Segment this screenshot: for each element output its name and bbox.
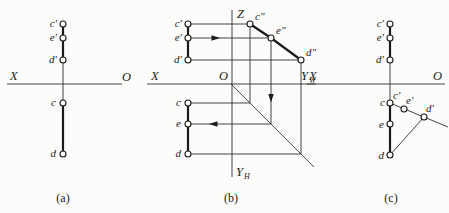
panel-c-label-d-prime: d′ (376, 53, 385, 65)
panel-b-point-c (185, 100, 191, 106)
panel-b-x-axis-label: X (150, 69, 160, 83)
panel-c-point-d (387, 152, 393, 158)
panel-c-point-c-prime (387, 21, 393, 27)
panel-a-point-d (60, 151, 66, 157)
panel-b-label-d-prime: d′ (174, 53, 183, 65)
panel-c-point-e1-prime (401, 106, 407, 112)
projection-diagram-svg: X O c′ e′ d′ c d (a) Z X O Y W Y H (0, 0, 449, 213)
panel-b: Z X O Y W Y H c′ (147, 7, 317, 205)
panel-c-d-to-d1-line (390, 117, 424, 155)
panel-a: X O c′ e′ d′ c d (a) (7, 17, 131, 205)
panel-b-point-e (185, 121, 191, 127)
panel-c-label-d1-prime: d′ (426, 102, 435, 114)
panel-b-label-c-prime: c′ (175, 17, 183, 29)
panel-b-point-d-prime (185, 57, 191, 63)
panel-b-caption: (b) (224, 191, 238, 205)
panel-b-label-d-dblprime: d″ (306, 46, 317, 58)
panel-a-label-c: c (51, 96, 56, 108)
panel-c-rotated-line (390, 103, 448, 127)
panel-c-label-c: c (380, 96, 385, 108)
panel-b-point-c-dblprime (247, 21, 253, 27)
construction-arrow-left-icon (209, 121, 218, 126)
panel-a-label-d-prime: d′ (49, 53, 58, 65)
panel-b-point-e-prime (185, 35, 191, 41)
panel-a-point-c-prime (60, 21, 66, 27)
panel-b-point-d (185, 151, 191, 157)
panel-b-origin-label: O (219, 69, 228, 83)
panel-a-origin-label: O (122, 70, 131, 84)
panel-c-label-c-prime: c′ (377, 17, 385, 29)
panel-b-point-d-dblprime (298, 57, 304, 63)
panel-b-point-e-dblprime (268, 35, 274, 41)
construction-arrow-down-icon (268, 94, 273, 103)
panel-a-caption: (a) (56, 191, 69, 205)
descriptive-geometry-figure: X O c′ e′ d′ c d (a) Z X O Y W Y H (0, 0, 449, 213)
panel-c-label-d: d (379, 149, 385, 161)
panel-b-yh-axis-subscript: H (243, 172, 251, 181)
panel-c-label-e-prime: e′ (377, 31, 385, 43)
panel-c-point-d1-prime (421, 114, 427, 120)
panel-a-point-c (60, 100, 66, 106)
panel-b-z-axis-label: Z (237, 7, 245, 21)
panel-a-label-e-prime: e′ (50, 31, 58, 43)
panel-c-point-e-prime (387, 35, 393, 41)
panel-b-point-c-prime (185, 21, 191, 27)
panel-b-label-d: d (176, 147, 182, 159)
panel-a-x-axis-label: X (9, 69, 19, 83)
panel-a-point-d-prime (60, 57, 66, 63)
construction-arrow-right-icon (212, 35, 221, 40)
panel-c-caption: (c) (384, 191, 397, 205)
panel-c-origin-label: O (433, 69, 442, 83)
panel-b-label-e-dblprime: e″ (276, 24, 286, 36)
panel-b-label-e: e (176, 117, 181, 129)
panel-b-label-c: c (176, 96, 181, 108)
panel-b-label-c-dblprime: c″ (255, 10, 265, 22)
panel-c-point-e (387, 121, 393, 127)
panel-c: X O c′ e′ d′ c e d c′ e′ d′ (c) (307, 17, 448, 205)
panel-b-label-e-prime: e′ (175, 31, 183, 43)
panel-a-label-c-prime: c′ (50, 17, 58, 29)
panel-c-x-axis-label: X (308, 69, 318, 83)
panel-a-point-e-prime (60, 35, 66, 41)
panel-c-label-c1-prime: c′ (393, 89, 401, 101)
panel-c-label-e1-prime: e′ (406, 94, 414, 106)
panel-c-label-e: e (379, 118, 384, 130)
panel-a-label-d: d (51, 147, 57, 159)
panel-c-point-d-prime (387, 57, 393, 63)
